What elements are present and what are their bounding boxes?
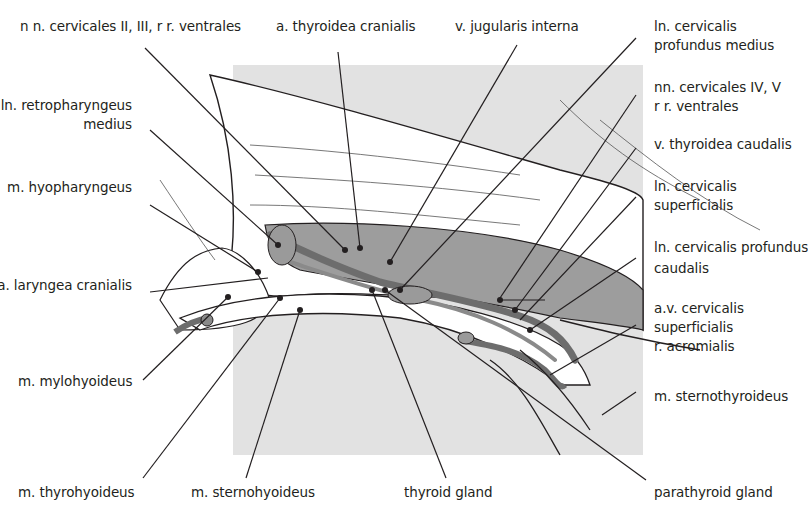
label-a-laryngea-cranialis: a. laryngea cranialis xyxy=(0,276,132,295)
label-text: ln. retropharyngeus xyxy=(1,96,132,115)
label-text: m. hyopharyngeus xyxy=(7,178,132,197)
label-a-thyroidea-cranialis: a. thyroidea cranialis xyxy=(276,17,416,36)
label-v-thyroidea-caudalis: v. thyroidea caudalis xyxy=(654,135,792,154)
label-text: ln. cervicalis xyxy=(654,177,737,196)
label-m-sternothyroideus: m. sternothyroideus xyxy=(654,387,788,406)
thyroid-gland-shape xyxy=(388,286,432,304)
label-text: medius xyxy=(1,115,132,134)
label-ln-retropharyngeus-medius: ln. retropharyngeus medius xyxy=(1,96,132,134)
label-text: m. thyrohyoideus xyxy=(18,483,135,502)
label-av-cervicalis-superficialis: a.v. cervicalis superficialis r. acromia… xyxy=(654,299,744,356)
label-ln-cervicalis-profundus-medius: ln. cervicalis profundus medius xyxy=(654,17,774,55)
label-nn-cervicales-2-3: n n. cervicales II, III, r r. ventrales xyxy=(20,17,241,36)
label-text: ln. cervicalis xyxy=(654,17,774,36)
label-text: r r. ventrales xyxy=(654,97,781,116)
retropharyngeal-node-shape xyxy=(268,225,296,265)
label-text: profundus medius xyxy=(654,36,774,55)
label-text: nn. cervicales IV, V xyxy=(654,78,781,97)
label-text: r. acromialis xyxy=(654,337,744,356)
label-text: n n. cervicales II, III, r r. ventrales xyxy=(20,17,241,36)
label-text: a.v. cervicalis xyxy=(654,299,744,318)
label-text: thyroid gland xyxy=(404,483,492,502)
label-text: m. sternothyroideus xyxy=(654,387,788,406)
label-parathyroid-gland: parathyroid gland xyxy=(654,483,773,502)
label-text: parathyroid gland xyxy=(654,483,773,502)
label-m-mylohyoideus: m. mylohyoideus xyxy=(18,372,132,391)
caudal-node xyxy=(458,332,474,344)
label-m-thyrohyoideus: m. thyrohyoideus xyxy=(18,483,135,502)
label-text: superficialis xyxy=(654,318,744,337)
label-text: v. thyroidea caudalis xyxy=(654,135,792,154)
label-nn-cervicales-4-5: nn. cervicales IV, V r r. ventrales xyxy=(654,78,781,116)
label-text: caudalis xyxy=(654,259,808,278)
label-m-sternohyoideus: m. sternohyoideus xyxy=(191,483,315,502)
label-m-hyopharyngeus: m. hyopharyngeus xyxy=(7,178,132,197)
label-text: a. thyroidea cranialis xyxy=(276,17,416,36)
label-text: m. sternohyoideus xyxy=(191,483,315,502)
label-text: m. mylohyoideus xyxy=(18,372,132,391)
label-thyroid-gland: thyroid gland xyxy=(404,483,492,502)
label-text: v. jugularis interna xyxy=(455,17,579,36)
label-ln-cervicalis-profundus-caudalis: ln. cervicalis profundus caudalis xyxy=(654,238,808,278)
label-text: superficialis xyxy=(654,196,737,215)
label-text: ln. cervicalis profundus xyxy=(654,238,808,257)
label-ln-cervicalis-superficialis: ln. cervicalis superficialis xyxy=(654,177,737,215)
vessel-cross-section xyxy=(201,314,213,326)
label-v-jugularis-interna: v. jugularis interna xyxy=(455,17,579,36)
label-text: a. laryngea cranialis xyxy=(0,276,132,295)
